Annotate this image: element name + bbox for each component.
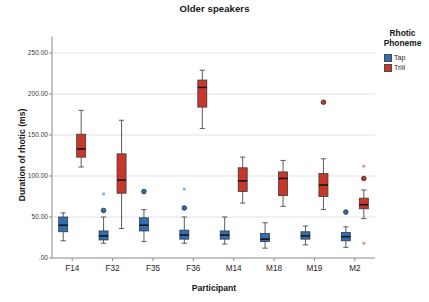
boxplot-box [238, 157, 247, 203]
y-tick-label: 150.00 [4, 131, 48, 138]
outlier-point [321, 100, 326, 105]
boxplot-box [319, 100, 328, 210]
legend-swatch-tap [384, 54, 392, 62]
boxplot-box [198, 70, 207, 128]
boxplot-box [117, 120, 126, 228]
x-tick-label: M2 [335, 264, 375, 273]
outlier-point [182, 206, 187, 211]
boxplot-box [220, 217, 229, 244]
extreme-point [102, 193, 105, 196]
y-tick-label: .00 [4, 254, 48, 261]
y-tick-label: 200.00 [4, 90, 48, 97]
outlier-point [344, 210, 349, 215]
extreme-point [183, 188, 186, 191]
legend-title: Rhotic Phoneme [376, 28, 429, 48]
boxplot-box [359, 165, 368, 245]
legend-swatch-trill [384, 64, 392, 72]
boxplot-box [301, 226, 310, 245]
x-tick-label: F14 [52, 264, 92, 273]
y-tick-label: 100.00 [4, 172, 48, 179]
outlier-point [101, 208, 106, 213]
outlier-point [142, 189, 147, 194]
plot-area [0, 0, 429, 302]
extreme-point [362, 242, 365, 245]
x-tick-label: M18 [254, 264, 294, 273]
y-tick-label: 50.00 [4, 213, 48, 220]
outlier-point [362, 176, 367, 181]
boxplot-box [261, 223, 270, 248]
boxplot-box [180, 188, 189, 244]
legend-label: Trill [394, 63, 405, 72]
legend-items: TapTrill [376, 53, 429, 72]
x-tick-label: F35 [133, 264, 173, 273]
boxplot-box [77, 110, 86, 167]
boxplot-box [99, 193, 108, 244]
boxplot-box [59, 213, 68, 241]
boxplot-chart: Older speakers Duration of rhotic (ms) P… [0, 0, 429, 302]
boxplot-box [279, 160, 288, 206]
legend-label: Tap [394, 53, 405, 62]
x-tick-label: F32 [93, 264, 133, 273]
x-tick-label: M14 [214, 264, 254, 273]
legend-row[interactable]: Tap [384, 53, 429, 62]
legend-row[interactable]: Trill [384, 63, 429, 72]
boxplot-box [139, 189, 148, 241]
legend-title-line1: Rhotic [376, 28, 429, 38]
boxplot-box [341, 210, 350, 248]
legend-title-line2: Phoneme [376, 38, 429, 48]
y-tick-label: 250.00 [4, 49, 48, 56]
extreme-point [362, 165, 365, 168]
legend: Rhotic Phoneme TapTrill [376, 28, 429, 73]
x-tick-label: F36 [173, 264, 213, 273]
x-tick-label: M19 [294, 264, 334, 273]
